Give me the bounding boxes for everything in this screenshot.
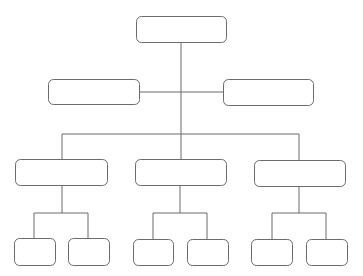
node-assistant-left <box>49 80 140 105</box>
node-assistant-right <box>224 80 314 106</box>
node-team-1a <box>15 239 56 266</box>
node-dept-2 <box>136 160 227 186</box>
node-dept-3 <box>255 161 346 187</box>
connectors <box>34 42 326 239</box>
node-team-1b <box>69 239 110 266</box>
node-team-2a <box>134 240 174 266</box>
node-team-3b <box>307 240 348 266</box>
org-chart-diagram <box>0 0 363 276</box>
node-team-2b <box>188 240 229 266</box>
node-team-3a <box>252 240 293 266</box>
node-root <box>137 17 227 43</box>
node-dept-1 <box>16 160 108 186</box>
